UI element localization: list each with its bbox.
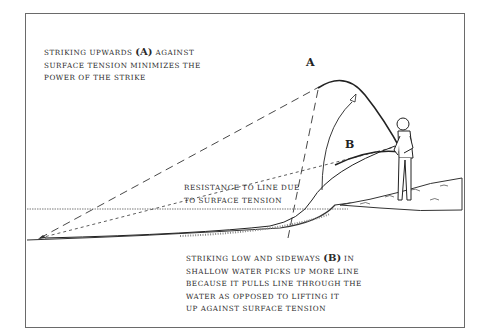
- caption-top: STRIKING UPWARDS (A) AGAINST SURFACE TEN…: [44, 46, 201, 85]
- angler-figure: [394, 118, 413, 200]
- caption-bottom: STRIKING LOW AND SIDEWAYS (B) IN SHALLOW…: [186, 252, 362, 316]
- arrow-head: [350, 94, 356, 102]
- caption-middle: RESISTANCE TO LINE DUE TO SURFACE TENSIO…: [184, 182, 300, 207]
- line-a-dashed: [40, 87, 319, 238]
- rod-b: [335, 151, 400, 165]
- label-a: A: [306, 56, 315, 69]
- rod-a: [318, 80, 402, 152]
- label-b: B: [345, 138, 354, 151]
